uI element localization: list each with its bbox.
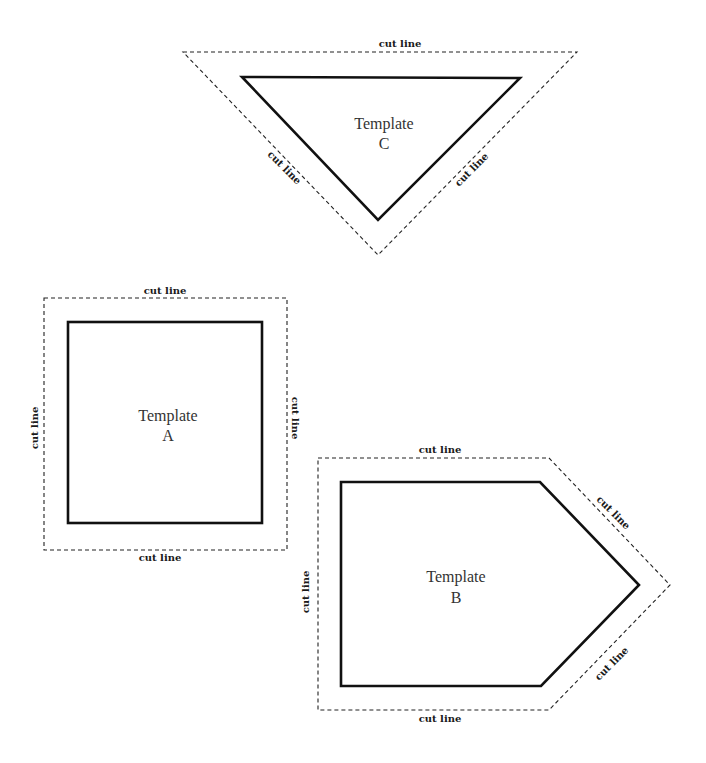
template-a-cut-label-right: cut line (290, 397, 301, 440)
template-a: cut line cut line cut line cut line Temp… (29, 285, 301, 563)
template-b-cut-label-lower-right: cut line (593, 645, 631, 683)
template-b-title: Template (426, 568, 485, 586)
template-b-cut-label-left: cut line (300, 571, 311, 614)
template-a-letter: A (162, 427, 174, 444)
template-c-cut-label-top: cut line (379, 38, 422, 49)
template-b-letter: B (451, 589, 462, 606)
template-c-cut-label-right: cut line (453, 151, 491, 189)
template-b-outline (341, 482, 639, 686)
template-b-cut-label-top: cut line (419, 444, 462, 455)
template-b-cut-label-bottom: cut line (419, 713, 462, 724)
template-a-cut-label-bottom: cut line (139, 552, 182, 563)
template-a-title: Template (138, 407, 197, 425)
template-c-title: Template (354, 115, 413, 133)
template-c-letter: C (379, 135, 390, 152)
templates-diagram: cut line cut line cut line Template C cu… (0, 0, 706, 763)
template-a-cut-label-top: cut line (144, 285, 187, 296)
template-a-cut-label-left: cut line (29, 407, 40, 450)
template-c: cut line cut line cut line Template C (183, 38, 577, 255)
template-c-cut-label-left: cut line (265, 149, 303, 187)
template-b: cut line cut line cut line cut line cut … (300, 444, 670, 724)
